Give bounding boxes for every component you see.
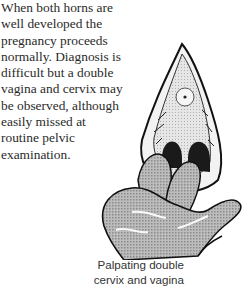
- body-line: well developed the: [1, 16, 131, 32]
- caption-line: Palpating double: [44, 258, 184, 273]
- caption-line: cervix and vagina: [44, 273, 184, 288]
- figure-illustration: [58, 40, 244, 260]
- figure-caption: Palpating double cervix and vagina: [44, 258, 184, 287]
- body-line: When both horns are: [1, 0, 131, 16]
- hand-palpating-illustration-icon: [58, 40, 244, 260]
